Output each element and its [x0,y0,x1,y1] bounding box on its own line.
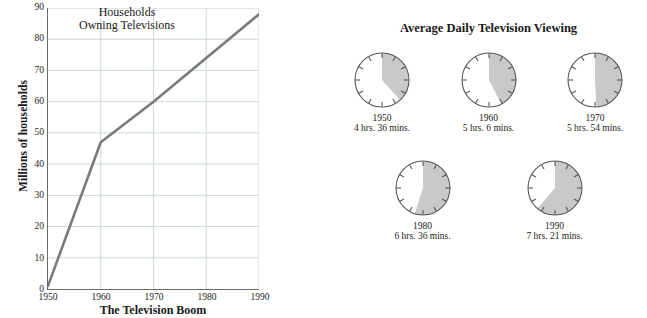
y-axis-tick-label: 70 [35,66,45,76]
clock-year-label: 1950 [373,113,392,123]
y-axis-tick-label: 90 [35,3,45,13]
clocks-title: Average Daily Television Viewing [330,21,647,36]
y-axis-tick-label: 20 [35,223,45,233]
clock-face [459,50,519,110]
clock-item: 19705 hrs. 54 mins. [551,50,639,134]
x-axis-tick-label: 1980 [198,293,217,303]
chart-title: Households Owning Televisions [62,6,192,33]
x-axis-tick-label: 1960 [92,293,111,303]
clock-year-label: 1970 [586,113,605,123]
chart-title-line-1: Households [62,6,192,19]
clock-row-top: 19504 hrs. 36 mins.19605 hrs. 6 mins.197… [330,50,647,134]
clocks-panel: Average Daily Television Viewing 19504 h… [330,0,647,318]
y-axis-tick-label: 10 [35,254,45,264]
clock-face [525,158,585,218]
clock-item: 19504 hrs. 36 mins. [338,50,426,134]
clock-year-label: 1960 [479,113,498,123]
x-axis-tick-label: 1970 [145,293,164,303]
clock-face [352,50,412,110]
clock-item: 19907 hrs. 21 mins. [511,158,599,242]
line-chart-panel: Millions of households 01020304050607080… [0,0,320,318]
vertical-gridlines [101,8,259,289]
clock-item: 19806 hrs. 36 mins. [379,158,467,242]
y-axis-tick-label: 50 [35,129,45,139]
clock-face [565,50,625,110]
clock-time-label: 7 hrs. 21 mins. [526,231,582,242]
line-chart-svg [48,8,259,289]
y-axis-tick-label: 80 [35,35,45,45]
clock-time-label: 6 hrs. 36 mins. [394,231,450,242]
clock-year-label: 1980 [413,221,432,231]
chart-title-line-2: Owning Televisions [62,19,192,32]
clock-item: 19605 hrs. 6 mins. [445,50,533,134]
y-axis-title: Millions of households [17,51,29,221]
television-statistics-figure: Millions of households 01020304050607080… [0,0,647,318]
clock-time-label: 4 hrs. 36 mins. [354,123,410,134]
y-axis-tick-label: 30 [35,191,45,201]
plot-area: 0102030405060708090 19501960197019801990 [47,8,259,290]
clock-year-label: 1990 [545,221,564,231]
clock-time-label: 5 hrs. 54 mins. [567,123,623,134]
y-axis-tick-label: 40 [35,160,45,170]
clock-face [393,158,453,218]
y-axis-tick-label: 60 [35,97,45,107]
clock-row-bottom: 19806 hrs. 36 mins.19907 hrs. 21 mins. [330,158,647,242]
clock-time-label: 5 hrs. 6 mins. [463,123,514,134]
x-axis-tick-label: 1990 [251,293,270,303]
chart-caption: The Television Boom [47,303,259,318]
x-axis-tick-label: 1950 [39,293,58,303]
